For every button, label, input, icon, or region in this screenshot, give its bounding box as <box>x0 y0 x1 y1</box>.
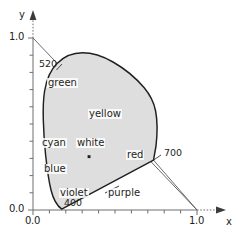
region-label-blue: blue <box>43 164 67 174</box>
y-axis-arrow-icon <box>30 10 37 20</box>
region-label-purple: purple <box>107 188 141 198</box>
y-axis-ticks <box>28 38 33 210</box>
seven-hundred-nm-tangent-line <box>154 160 198 210</box>
x-axis-min-tick-label: 0.0 <box>24 216 41 226</box>
y-axis-min-tick-label: 0.0 <box>8 204 25 214</box>
region-label-cyan: cyan <box>41 138 67 148</box>
region-label-white: white <box>76 138 105 148</box>
y-axis-title: y <box>18 10 26 20</box>
y-axis-max-tick-label: 1.0 <box>8 32 25 42</box>
x-axis-arrow-icon <box>216 207 226 214</box>
wavelength-label-520: 520 <box>38 59 58 69</box>
region-label-yellow: yellow <box>88 109 122 119</box>
region-label-red: red <box>126 150 144 160</box>
x-axis-ticks <box>33 210 197 215</box>
x-axis-title: x <box>225 217 233 227</box>
white-point-marker <box>88 155 91 158</box>
region-label-green: green <box>47 78 78 88</box>
region-label-violet: violet <box>59 188 89 198</box>
x-axis-max-tick-label: 1.0 <box>188 216 205 226</box>
wavelength-label-400: 400 <box>63 198 83 208</box>
chromaticity-diagram-figure: 1.0 0.0 0.0 1.0 y x 520 400 700 green ye… <box>0 0 241 236</box>
wavelength-label-700: 700 <box>163 148 183 158</box>
